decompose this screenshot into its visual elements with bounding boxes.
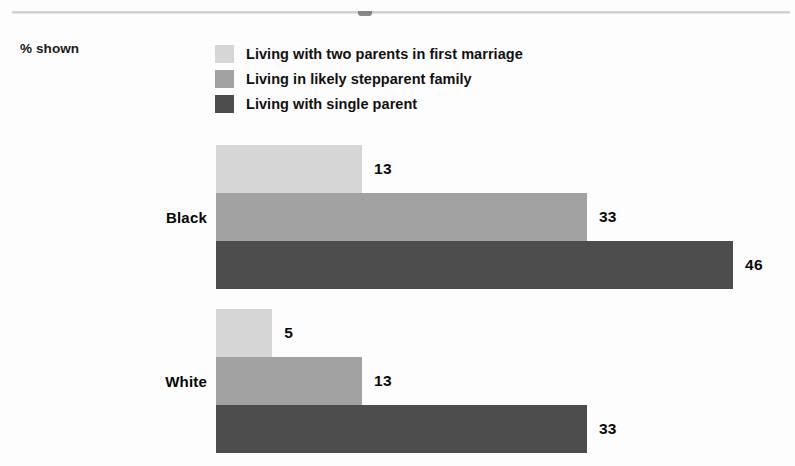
bar-value-white-stepparent-family: 13	[374, 357, 392, 405]
bar-value-white-two-parents-first-marriage: 5	[284, 309, 293, 357]
chart-plot-area: Black 13 33 46 White 5 13 33	[0, 0, 795, 466]
bar-value-black-stepparent-family: 33	[599, 193, 617, 241]
bar-value-black-two-parents-first-marriage: 13	[374, 145, 392, 193]
bar-black-single-parent	[216, 241, 733, 289]
chart-page: % shown Living with two parents in first…	[0, 0, 795, 466]
group-label-black: Black	[57, 209, 207, 226]
bar-white-single-parent	[216, 405, 587, 453]
bar-value-white-single-parent: 33	[599, 405, 617, 453]
group-label-white: White	[57, 373, 207, 390]
bar-black-two-parents-first-marriage	[216, 145, 362, 193]
bar-value-black-single-parent: 46	[745, 241, 763, 289]
bar-black-stepparent-family	[216, 193, 587, 241]
bar-white-two-parents-first-marriage	[216, 309, 272, 357]
bar-white-stepparent-family	[216, 357, 362, 405]
